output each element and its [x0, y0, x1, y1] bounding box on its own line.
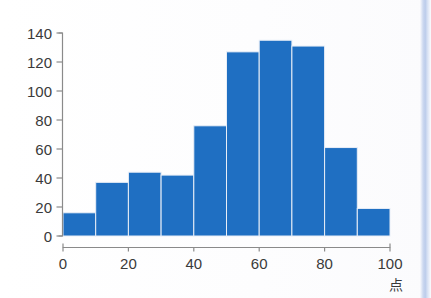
- histogram-bar[interactable]: [292, 46, 325, 236]
- page-edge-strip: [420, 0, 431, 298]
- y-tick-label: 100: [27, 83, 52, 100]
- y-tick-label: 40: [35, 170, 52, 187]
- x-tick-label: 40: [185, 255, 202, 272]
- histogram-bar[interactable]: [325, 148, 358, 236]
- x-tick-label: 100: [377, 255, 402, 272]
- x-axis-unit-label: 点: [389, 277, 403, 293]
- histogram-bar[interactable]: [128, 172, 161, 236]
- y-tick-label: 60: [35, 141, 52, 158]
- histogram-bar[interactable]: [63, 213, 96, 236]
- y-tick-label: 120: [27, 54, 52, 71]
- x-tick-label: 20: [120, 255, 137, 272]
- histogram-plot: 140 120 100 80 60 40 20 0 0 20 40 60 80: [0, 0, 431, 298]
- histogram-bar[interactable]: [96, 182, 129, 236]
- y-tick-label: 80: [35, 112, 52, 129]
- x-tick-label: 60: [251, 255, 268, 272]
- x-tick-label: 0: [59, 255, 67, 272]
- y-tick-label: 0: [44, 228, 52, 245]
- y-tick-label: 20: [35, 199, 52, 216]
- y-tick-labels: 140 120 100 80 60 40 20 0: [27, 25, 52, 245]
- x-tick-label: 80: [316, 255, 333, 272]
- histogram-bar[interactable]: [357, 208, 390, 236]
- x-tick-labels: 0 20 40 60 80 100: [59, 255, 403, 272]
- histogram-bar[interactable]: [161, 175, 194, 236]
- histogram-bar[interactable]: [194, 126, 227, 236]
- x-axis: [63, 244, 390, 252]
- bars-group: [63, 40, 390, 236]
- histogram-bar[interactable]: [259, 40, 292, 236]
- histogram-figure: 140 120 100 80 60 40 20 0 0 20 40 60 80: [0, 0, 431, 298]
- y-tick-label: 140: [27, 25, 52, 42]
- y-axis: [57, 33, 63, 236]
- histogram-bar[interactable]: [227, 52, 260, 236]
